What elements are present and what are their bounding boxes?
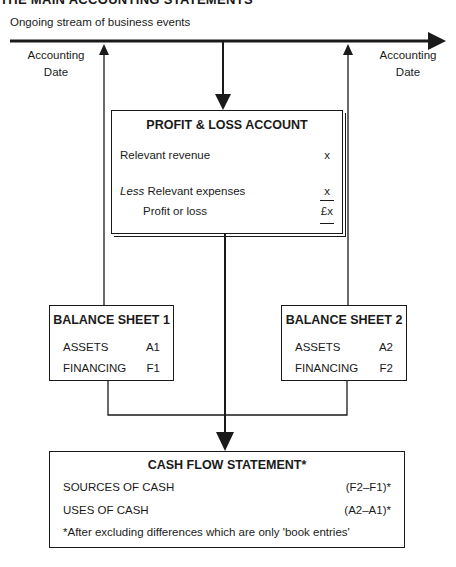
profit-or-loss-label: Profit or loss: [143, 205, 207, 217]
bs2-assets-label: ASSETS: [295, 341, 340, 353]
sources-of-cash-label: SOURCES OF CASH: [63, 481, 174, 493]
bs1-financing-label: FINANCING: [63, 362, 126, 374]
profit-or-loss-value: £x: [321, 205, 333, 217]
cash-flow-footnote: *After excluding differences which are o…: [63, 526, 350, 538]
revenue-value: x: [324, 149, 330, 161]
sources-of-cash-value: (F2–F1)*: [346, 481, 391, 493]
accounting-date-right: Accounting Date: [368, 47, 448, 81]
arrow-up-icon: [99, 44, 109, 55]
profit-loss-box: PROFIT & LOSS ACCOUNT Relevant revenue x…: [111, 110, 343, 234]
revenue-label: Relevant revenue: [120, 149, 210, 161]
uses-of-cash-label: USES OF CASH: [63, 504, 149, 516]
cash-flow-title: CASH FLOW STATEMENT*: [50, 458, 404, 472]
bs2-financing-label: FINANCING: [295, 362, 358, 374]
bs1-assets-label: ASSETS: [63, 341, 108, 353]
bs1-assets-value: A1: [146, 341, 160, 353]
accounting-date-left: Accounting Date: [16, 47, 96, 81]
balance-sheet-2-box: BALANCE SHEET 2 ASSETS A2 FINANCING F2: [281, 305, 407, 381]
expenses-label: Less Relevant expenses: [120, 185, 245, 197]
uses-of-cash-value: (A2–A1)*: [344, 504, 391, 516]
arrow-down-icon: [215, 94, 231, 110]
accounting-date-left-line1: Accounting: [16, 47, 96, 64]
balance-sheet-1-title: BALANCE SHEET 1: [50, 313, 173, 327]
accounting-date-right-line1: Accounting: [368, 47, 448, 64]
expenses-value: x: [324, 185, 330, 197]
expenses-text: Relevant expenses: [144, 185, 245, 197]
balance-sheet-2-title: BALANCE SHEET 2: [282, 313, 406, 327]
accounting-date-right-line2: Date: [368, 64, 448, 81]
subtotal-rule: [320, 200, 334, 201]
total-rule: [320, 223, 334, 224]
arrow-down-icon: [216, 432, 234, 451]
cash-flow-box: CASH FLOW STATEMENT* SOURCES OF CASH (F2…: [49, 451, 405, 548]
bs1-financing-value: F1: [147, 362, 160, 374]
bs2-assets-value: A2: [379, 341, 393, 353]
bs2-financing-value: F2: [380, 362, 393, 374]
balance-sheet-1-box: BALANCE SHEET 1 ASSETS A1 FINANCING F1: [49, 305, 174, 381]
less-prefix: Less: [120, 185, 144, 197]
profit-loss-title: PROFIT & LOSS ACCOUNT: [112, 118, 342, 132]
accounting-date-left-line2: Date: [16, 64, 96, 81]
arrow-up-icon: [343, 44, 353, 55]
